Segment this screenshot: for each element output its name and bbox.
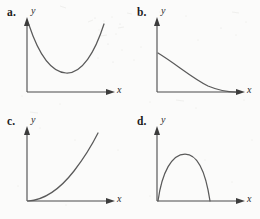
panel-d-plot	[130, 109, 260, 219]
panel-a: a. y x	[0, 0, 130, 110]
panel-d-y-axis-arrowhead	[154, 126, 160, 135]
panel-d-x-axis-arrowhead	[236, 198, 245, 204]
panel-b-plot	[130, 0, 260, 110]
panel-c: c. y x	[0, 109, 130, 219]
panel-c-exponential-growth-curve	[28, 133, 98, 201]
panel-a-x-axis-arrowhead	[106, 89, 115, 95]
panel-a-u-shaped-curve	[29, 24, 104, 73]
panel-c-y-axis-arrowhead	[24, 126, 30, 135]
panel-d-inverted-parabola-arch	[158, 154, 210, 201]
panel-c-plot	[0, 109, 130, 219]
panel-a-plot	[0, 0, 130, 110]
panel-c-x-axis-arrowhead	[106, 198, 115, 204]
panel-b-x-axis-arrowhead	[236, 89, 245, 95]
panel-b-exponential-decay-curve	[158, 53, 236, 92]
panel-d: d. y x	[130, 109, 260, 219]
panel-b: b. y x	[130, 0, 260, 110]
four-graphs-figure: a. y x b. y x c. y x	[0, 0, 260, 219]
panel-b-y-axis-arrowhead	[154, 17, 160, 26]
